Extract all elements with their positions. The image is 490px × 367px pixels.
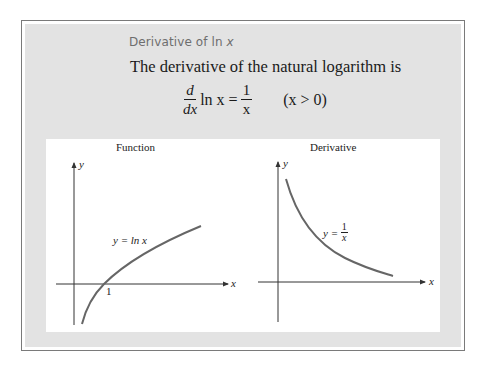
- one-over-x-prefix: y =: [323, 227, 338, 239]
- one-over-x-label: y = 1 x: [323, 222, 348, 243]
- function-x-label: x: [231, 277, 236, 289]
- derivative-x-label: x: [429, 275, 434, 287]
- tick-one-label: 1: [106, 285, 112, 297]
- ln-x-label: y = ln x: [113, 234, 147, 246]
- one-over-x-denominator: x: [342, 233, 346, 243]
- derivative-graph-title: Derivative: [310, 141, 356, 153]
- function-graph-title: Function: [116, 141, 155, 153]
- one-over-x-small-fraction: 1 x: [341, 222, 348, 243]
- function-y-label: y: [79, 158, 84, 170]
- derivative-y-label: y: [283, 157, 288, 169]
- graphs-svg: [0, 0, 490, 367]
